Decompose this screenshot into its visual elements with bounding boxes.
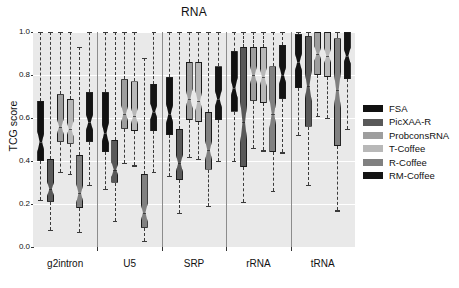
- cap-lower: [177, 213, 182, 214]
- median-line: [217, 99, 220, 100]
- group-separator: [291, 32, 292, 247]
- whisker-lower: [189, 120, 190, 157]
- median-line: [88, 122, 91, 123]
- cap-lower: [241, 202, 246, 203]
- whisker-lower: [50, 202, 51, 230]
- box-body: [215, 66, 222, 120]
- cap-upper: [48, 32, 53, 33]
- cap-upper: [142, 58, 147, 59]
- cap-upper: [87, 32, 92, 33]
- whisker-upper: [198, 32, 199, 62]
- whisker-lower: [153, 131, 154, 172]
- median-line: [123, 114, 126, 115]
- whisker-lower: [79, 208, 80, 232]
- box-body: [250, 47, 257, 101]
- y-tick-label: 0.0: [8, 243, 30, 251]
- whisker-lower: [308, 127, 309, 185]
- cap-upper: [296, 32, 301, 33]
- legend-label: FSA: [389, 104, 407, 114]
- median-line: [307, 86, 310, 87]
- cap-lower: [251, 148, 256, 149]
- whisker-upper: [169, 32, 170, 77]
- cap-upper: [38, 32, 43, 33]
- median-line: [346, 56, 349, 57]
- y-tick-label: 0.8: [8, 71, 30, 79]
- legend-label: R-Coffee: [389, 158, 427, 168]
- median-line: [316, 54, 319, 55]
- box-body: [131, 81, 138, 130]
- y-tick-label: 0.6: [8, 114, 30, 122]
- whisker-upper: [105, 32, 106, 92]
- median-line: [104, 133, 107, 134]
- whisker-lower: [89, 142, 90, 185]
- box-body: [295, 34, 302, 88]
- median-line: [252, 75, 255, 76]
- whisker-lower: [282, 99, 283, 153]
- whisker-upper: [234, 32, 235, 51]
- median-line: [143, 213, 146, 214]
- median-line: [39, 142, 42, 143]
- legend-item[interactable]: ProbconsRNA: [363, 129, 459, 142]
- legend-label: PicXAA-R: [389, 117, 431, 127]
- y-tick-label: 1.0: [8, 28, 30, 36]
- chart-title: RNA: [33, 5, 355, 19]
- legend-item[interactable]: RM-Coffee: [363, 169, 459, 182]
- legend-item[interactable]: PicXAA-R: [363, 115, 459, 128]
- cap-upper: [113, 32, 118, 33]
- whisker-upper: [115, 32, 116, 140]
- median-line: [168, 114, 171, 115]
- cap-upper: [206, 32, 211, 33]
- legend-item[interactable]: FSA: [363, 102, 459, 115]
- cap-upper: [187, 32, 192, 33]
- whisker-upper: [60, 32, 61, 94]
- box-body: [205, 112, 212, 170]
- y-tick-label: 0.2: [8, 200, 30, 208]
- cap-lower: [68, 174, 73, 175]
- whisker-lower: [327, 77, 328, 118]
- whisker-upper: [273, 32, 274, 66]
- box-body: [231, 51, 238, 111]
- legend-swatch: [363, 145, 383, 152]
- cap-lower: [187, 157, 192, 158]
- cap-lower: [271, 191, 276, 192]
- box-body: [324, 32, 331, 77]
- cap-lower: [132, 165, 137, 166]
- cap-lower: [316, 116, 321, 117]
- whisker-lower: [70, 144, 71, 174]
- cap-lower: [280, 152, 285, 153]
- cap-upper: [103, 32, 108, 33]
- cap-lower: [122, 163, 127, 164]
- box-body: [37, 101, 44, 161]
- median-line: [133, 116, 136, 117]
- cap-upper: [152, 32, 157, 33]
- legend-item[interactable]: R-Coffee: [363, 156, 459, 169]
- legend-label: RM-Coffee: [389, 171, 435, 181]
- median-line: [271, 114, 274, 115]
- median-line: [262, 77, 265, 78]
- cap-lower: [325, 118, 330, 119]
- whisker-lower: [298, 88, 299, 135]
- cap-upper: [241, 32, 246, 33]
- box-body: [47, 159, 54, 202]
- whisker-upper: [40, 32, 41, 101]
- legend-item[interactable]: T-Coffee: [363, 142, 459, 155]
- whisker-upper: [153, 32, 154, 84]
- cap-lower: [167, 176, 172, 177]
- cap-upper: [77, 47, 82, 48]
- whisker-lower: [179, 180, 180, 212]
- median-line: [242, 122, 245, 123]
- x-tick-mark: [291, 247, 292, 251]
- whisker-lower: [134, 131, 135, 165]
- box-body: [166, 77, 173, 135]
- whisker-upper: [179, 32, 180, 129]
- whisker-upper: [218, 32, 219, 66]
- box-body: [334, 38, 341, 146]
- chart-root: RNA TCG score 0.00.20.40.60.81.0 g2intro…: [0, 0, 459, 288]
- median-line: [178, 163, 181, 164]
- cap-lower: [152, 172, 157, 173]
- whisker-upper: [253, 32, 254, 47]
- whisker-lower: [198, 122, 199, 159]
- whisker-upper: [50, 32, 51, 159]
- cap-upper: [216, 32, 221, 33]
- cap-lower: [335, 210, 340, 211]
